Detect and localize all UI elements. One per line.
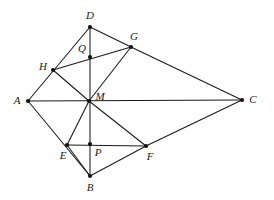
- vertex-label-b: B: [87, 181, 94, 193]
- edge-A-C: [28, 100, 242, 101]
- vertex-dot-d: [88, 25, 92, 29]
- geometry-diagram: ABCDEFGHMPQ: [0, 0, 274, 200]
- edge-F-C: [146, 100, 242, 146]
- edge-A-B: [28, 101, 90, 176]
- edge-A-D: [28, 27, 90, 101]
- vertex-dot-q: [88, 55, 92, 59]
- vertex-label-a: A: [13, 94, 21, 106]
- edge-M-F: [89, 101, 146, 146]
- vertex-dot-h: [51, 68, 55, 72]
- vertex-label-g: G: [130, 30, 138, 42]
- edge-D-G: [90, 27, 131, 47]
- vertex-label-d: D: [85, 9, 94, 21]
- edge-E-B: [67, 145, 90, 176]
- vertex-dot-g: [129, 45, 133, 49]
- vertex-label-f: F: [146, 150, 154, 162]
- edge-H-M: [53, 70, 89, 101]
- edge-G-C: [131, 47, 242, 100]
- edge-M-E: [67, 101, 89, 145]
- vertex-dot-m: [87, 99, 91, 103]
- vertex-dot-a: [26, 99, 30, 103]
- vertex-dot-e: [65, 143, 69, 147]
- vertex-label-e: E: [59, 149, 67, 161]
- vertex-dot-p: [88, 142, 92, 146]
- edge-H-G: [53, 47, 131, 70]
- vertex-label-h: H: [38, 60, 48, 72]
- diagram-canvas: ABCDEFGHMPQ: [0, 0, 274, 200]
- vertex-label-m: M: [94, 90, 105, 102]
- vertex-dot-c: [240, 98, 244, 102]
- vertex-label-p: P: [94, 146, 102, 158]
- vertex-dot-f: [144, 144, 148, 148]
- vertex-dot-b: [88, 174, 92, 178]
- vertex-label-c: C: [249, 93, 257, 105]
- vertex-label-q: Q: [78, 42, 86, 54]
- edge-E-F: [67, 145, 146, 146]
- vertex-dots-layer: [26, 25, 244, 178]
